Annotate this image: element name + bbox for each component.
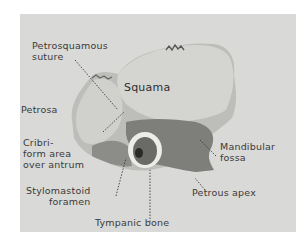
- label-squama: Squama: [124, 82, 170, 93]
- label-petrous-apex: Petrous apex: [192, 187, 256, 198]
- label-petrosquamous-suture: Petrosquamous suture: [32, 40, 108, 62]
- label-mandibular-fossa: Mandibular fossa: [220, 141, 275, 163]
- label-stylomastoid-foramen: Stylomastoid foramen: [26, 185, 90, 207]
- label-cribriform-area: Cribri- form area over antrum: [23, 137, 84, 170]
- mastoid-region: [92, 141, 132, 167]
- label-tympanic-bone: Tympanic bone: [95, 217, 169, 228]
- label-petrosa: Petrosa: [21, 104, 58, 115]
